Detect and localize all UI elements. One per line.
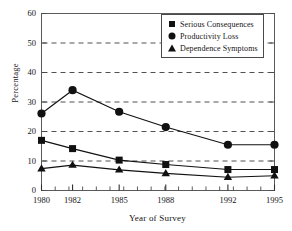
legend-item: Serious Consequences <box>166 18 258 30</box>
data-series-layer <box>37 86 278 180</box>
series-line <box>42 165 275 177</box>
data-point-marker <box>115 165 123 172</box>
data-point-marker <box>68 161 76 168</box>
data-point-marker <box>270 141 278 149</box>
series-line <box>42 90 275 145</box>
data-point-marker <box>162 123 170 131</box>
data-point-marker <box>162 169 170 176</box>
square-marker-icon <box>166 19 177 30</box>
data-point-marker <box>37 109 45 117</box>
legend-label: Dependence Symptoms <box>180 44 258 53</box>
data-point-marker <box>69 145 76 152</box>
data-point-marker <box>224 166 231 173</box>
legend-item: Dependence Symptoms <box>166 42 258 54</box>
data-point-marker <box>162 161 169 168</box>
data-point-marker <box>68 86 76 94</box>
chart-legend: Serious ConsequencesProductivity LossDep… <box>161 14 264 58</box>
triangle-marker-icon <box>166 43 177 54</box>
data-point-marker <box>116 157 123 164</box>
data-point-marker <box>115 108 123 116</box>
chart-figure: Percentage Year of Survey 0102030405060 … <box>0 0 292 231</box>
legend-label: Productivity Loss <box>180 32 238 41</box>
data-point-marker <box>224 173 232 180</box>
circle-marker-icon <box>166 31 177 42</box>
data-series <box>37 86 278 149</box>
gridlines <box>43 43 274 161</box>
legend-item: Productivity Loss <box>166 30 258 42</box>
data-point-marker <box>224 141 232 149</box>
legend-label: Serious Consequences <box>180 20 254 29</box>
data-point-marker <box>38 137 45 144</box>
